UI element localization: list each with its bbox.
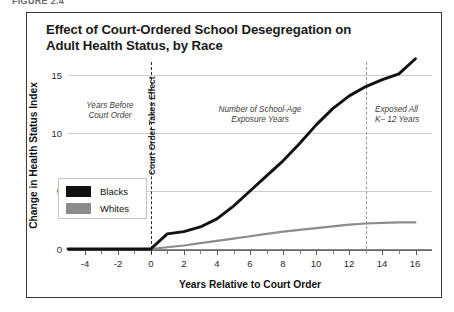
x-axis-label: Years Relative to Court Order xyxy=(68,279,432,290)
annotation-years-before-line1: Years Before xyxy=(76,101,144,111)
xtick-label-14: 14 xyxy=(370,258,394,269)
annotation-years-before: Years Before Court Order xyxy=(76,101,144,121)
xtick-mark-1 xyxy=(167,250,168,254)
legend-item-blacks: Blacks xyxy=(66,185,128,197)
ytick-label-0: 0 xyxy=(40,244,62,255)
xtick-mark-2 xyxy=(184,250,185,255)
xtick-mark--2 xyxy=(118,250,119,255)
figure-container: FIGURE 2.4 Effect of Court-Ordered Schoo… xyxy=(0,0,454,312)
xtick-label--2: -2 xyxy=(106,258,130,269)
legend-swatch-blacks xyxy=(66,186,91,197)
annotation-exposure-years-line2: Exposure Years xyxy=(196,115,324,125)
gridline-15 xyxy=(68,75,432,76)
annotation-years-before-line2: Court Order xyxy=(76,111,144,121)
annotation-court-order-takes-effect: Court Order Takes Effect xyxy=(147,76,157,175)
xtick-label-6: 6 xyxy=(238,258,262,269)
reference-line-k12 xyxy=(366,62,367,254)
xtick-mark-6 xyxy=(250,250,251,255)
xtick-mark-4 xyxy=(217,250,218,255)
legend-item-whites: Whites xyxy=(66,202,129,214)
legend-label-whites: Whites xyxy=(100,203,129,214)
xtick-label-2: 2 xyxy=(172,258,196,269)
legend: Blacks Whites xyxy=(58,178,147,219)
ytick-label-15: 15 xyxy=(40,70,62,81)
annotation-exposure-years: Number of School-Age Exposure Years xyxy=(196,105,324,125)
xtick-label--4: -4 xyxy=(73,258,97,269)
annotation-exposed-all-line1: Exposed All xyxy=(375,105,437,115)
chart-title-line2: Adult Health Status, by Race xyxy=(46,38,406,54)
xtick-label-8: 8 xyxy=(271,258,295,269)
chart-title: Effect of Court-Ordered School Desegrega… xyxy=(46,22,406,54)
xtick-mark-14 xyxy=(382,250,383,255)
xtick-mark--3 xyxy=(101,250,102,254)
xtick-mark-9 xyxy=(300,250,301,254)
xtick-mark-15 xyxy=(399,250,400,254)
xtick-label-12: 12 xyxy=(337,258,361,269)
xtick-label-16: 16 xyxy=(403,258,427,269)
xtick-label-0: 0 xyxy=(139,258,163,269)
gridline-10 xyxy=(68,133,432,134)
y-axis-label: Change in Health Status Index xyxy=(28,61,39,251)
xtick-mark-7 xyxy=(267,250,268,254)
xtick-mark-11 xyxy=(333,250,334,254)
chart-title-line1: Effect of Court-Ordered School Desegrega… xyxy=(46,22,406,38)
annotation-exposure-years-line1: Number of School-Age xyxy=(196,105,324,115)
xtick-mark--4 xyxy=(85,250,86,255)
legend-swatch-whites xyxy=(66,203,91,214)
annotation-exposed-all-k12: Exposed All K– 12 Years xyxy=(375,105,437,125)
xtick-mark-8 xyxy=(283,250,284,255)
xtick-mark-16 xyxy=(416,250,417,255)
xtick-mark--1 xyxy=(134,250,135,254)
figure-label: FIGURE 2.4 xyxy=(12,0,64,6)
figure-frame xyxy=(26,12,442,298)
annotation-exposed-all-line2: K– 12 Years xyxy=(375,115,437,125)
xtick-label-4: 4 xyxy=(205,258,229,269)
ytick-label-10: 10 xyxy=(40,128,62,139)
xtick-mark-10 xyxy=(316,250,317,255)
xtick-mark-12 xyxy=(349,250,350,255)
xtick-mark-5 xyxy=(234,250,235,254)
xtick-label-10: 10 xyxy=(304,258,328,269)
xtick-mark-3 xyxy=(200,250,201,254)
legend-label-blacks: Blacks xyxy=(100,186,128,197)
